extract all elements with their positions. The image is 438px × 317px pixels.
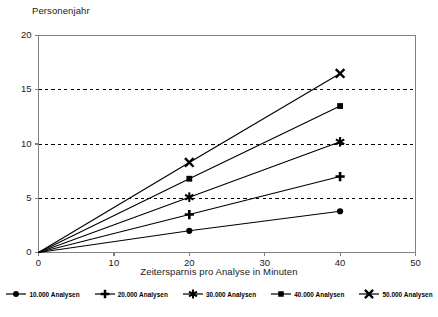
legend-label: 20.000 Analysen [118,291,168,298]
star-marker [336,137,344,147]
legend-swatch-square-icon [270,288,292,300]
cross-marker [336,69,345,78]
legend-item[interactable]: 10.000 Analysen [0,288,87,300]
chart-legend: 10.000 Analysen20.000 Analysen30.000 Ana… [0,288,438,300]
y-tick-label: 0 [6,246,32,257]
cross-marker [185,158,194,167]
y-tick-label: 10 [6,138,32,149]
plus-marker [100,290,109,299]
legend-item[interactable]: 40.000 Analysen [263,288,351,300]
legend-swatch-plus-icon [94,288,116,300]
chart-container: Personenjahr 05101520 01020304050 Zeiter… [0,0,438,317]
circle-marker [337,208,343,214]
y-tick-label: 15 [6,83,32,94]
legend-item[interactable]: 50.000 Analysen [351,288,438,300]
star-marker [185,192,193,202]
y-tick-label: 5 [6,192,32,203]
x-axis-title: Zeitersparnis pro Analyse in Minuten [0,266,438,277]
legend-swatch-star-icon [182,288,204,300]
legend-label: 30.000 Analysen [206,291,256,298]
square-marker [278,291,284,297]
legend-label: 50.000 Analysen [382,291,432,298]
plus-marker [336,172,345,181]
square-marker [186,176,192,182]
legend-item[interactable]: 20.000 Analysen [87,288,175,300]
legend-swatch-cross-icon [358,288,380,300]
axes-group [35,36,416,257]
square-marker [337,103,343,109]
circle-marker [186,228,192,234]
circle-marker [13,291,19,297]
legend-label: 40.000 Analysen [294,291,344,298]
gridlines-group [39,90,416,199]
plus-marker [185,210,194,219]
legend-label: 10.000 Analysen [29,291,79,298]
y-tick-label: 20 [6,29,32,40]
legend-item[interactable]: 30.000 Analysen [175,288,263,300]
legend-swatch-circle-icon [5,288,27,300]
